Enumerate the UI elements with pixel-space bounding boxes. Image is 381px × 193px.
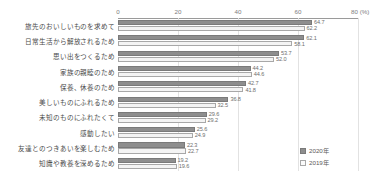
category-label: 旅先のおいしいものを求めて bbox=[3, 18, 115, 33]
legend-label-2019: 2019年 bbox=[309, 158, 329, 167]
value-label-2020: 64.7 bbox=[314, 19, 325, 25]
value-label-2020: 19.2 bbox=[178, 157, 189, 163]
value-label-2019: 44.6 bbox=[254, 71, 265, 77]
bar-2020 bbox=[118, 51, 279, 56]
value-label-2019: 62.2 bbox=[307, 25, 318, 31]
value-label-2020: 25.6 bbox=[197, 126, 208, 132]
value-label-2019: 52.0 bbox=[276, 56, 287, 62]
bar-2020 bbox=[118, 97, 228, 102]
bar-2019 bbox=[118, 103, 216, 108]
value-label-2020: 53.7 bbox=[281, 50, 292, 56]
bar-2019 bbox=[118, 164, 177, 169]
bar-group: 家族の親睦のため44.244.6 bbox=[118, 64, 358, 79]
value-label-2020: 22.3 bbox=[187, 142, 198, 148]
category-label: 感動したい bbox=[3, 125, 115, 140]
bar-chart: 020406080 (%) 旅先のおいしいものを求めて64.762.2日常生活か… bbox=[0, 0, 381, 193]
category-label: 知識や教養を深めるため bbox=[3, 156, 115, 171]
legend: 2020年 2019年 bbox=[300, 146, 329, 170]
category-label: 美しいものにふれるため bbox=[3, 95, 115, 110]
value-label-2019: 22.7 bbox=[188, 148, 199, 154]
bar-2020 bbox=[118, 142, 185, 147]
gridline-80 bbox=[358, 18, 359, 171]
bar-2020 bbox=[118, 158, 176, 163]
category-label: 家族の親睦のため bbox=[3, 64, 115, 79]
category-label: 友達とのつきあいを楽しむため bbox=[3, 140, 115, 155]
bar-2020 bbox=[118, 112, 207, 117]
legend-label-2020: 2020年 bbox=[309, 146, 329, 155]
x-tick-label-80: 80 (%) bbox=[351, 8, 369, 15]
bar-2020 bbox=[118, 81, 246, 86]
value-label-2020: 62.1 bbox=[306, 35, 317, 41]
category-label: 未知のものにふれたくて bbox=[3, 110, 115, 125]
legend-item-2019: 2019年 bbox=[300, 158, 329, 167]
bar-2020 bbox=[118, 20, 312, 25]
legend-swatch-2020 bbox=[300, 148, 306, 154]
value-label-2020: 42.7 bbox=[248, 80, 259, 86]
bar-2020 bbox=[118, 66, 251, 71]
value-label-2019: 19.6 bbox=[179, 163, 190, 169]
value-label-2019: 24.9 bbox=[195, 132, 206, 138]
bar-2019 bbox=[118, 26, 305, 31]
value-label-2020: 36.8 bbox=[230, 96, 241, 102]
bar-2019 bbox=[118, 133, 193, 138]
bar-2019 bbox=[118, 41, 292, 46]
x-tick-label-20: 20 bbox=[175, 8, 182, 15]
x-tick-label-60: 60 bbox=[295, 8, 302, 15]
bar-group: 美しいものにふれるため36.832.5 bbox=[118, 95, 358, 110]
value-label-2019: 41.8 bbox=[245, 87, 256, 93]
category-label: 思い出をつくるため bbox=[3, 49, 115, 64]
category-label: 日常生活から解放されるため bbox=[3, 33, 115, 48]
x-tick-label-40: 40 bbox=[235, 8, 242, 15]
x-tick-label-0: 0 bbox=[116, 8, 119, 15]
value-label-2019: 32.5 bbox=[218, 102, 229, 108]
legend-swatch-2019 bbox=[300, 160, 306, 166]
bar-2019 bbox=[118, 57, 274, 62]
bar-2020 bbox=[118, 35, 304, 40]
cropped-header-text bbox=[120, 0, 270, 6]
value-label-2019: 58.1 bbox=[294, 41, 305, 47]
legend-item-2020: 2020年 bbox=[300, 146, 329, 155]
bar-2020 bbox=[118, 127, 195, 132]
value-label-2020: 44.2 bbox=[253, 65, 264, 71]
bar-group: 旅先のおいしいものを求めて64.762.2 bbox=[118, 18, 358, 33]
bar-group: 思い出をつくるため53.752.0 bbox=[118, 49, 358, 64]
bar-group: 日常生活から解放されるため62.158.1 bbox=[118, 33, 358, 48]
bar-group: 未知のものにふれたくて29.629.2 bbox=[118, 110, 358, 125]
value-label-2020: 29.6 bbox=[209, 111, 220, 117]
bar-2019 bbox=[118, 87, 243, 92]
bar-2019 bbox=[118, 148, 186, 153]
bar-2019 bbox=[118, 72, 252, 77]
value-label-2019: 29.2 bbox=[208, 117, 219, 123]
bar-group: 保養、休養のため42.741.8 bbox=[118, 79, 358, 94]
category-label: 保養、休養のため bbox=[3, 79, 115, 94]
bar-2019 bbox=[118, 118, 206, 123]
bar-group: 感動したい25.624.9 bbox=[118, 125, 358, 140]
